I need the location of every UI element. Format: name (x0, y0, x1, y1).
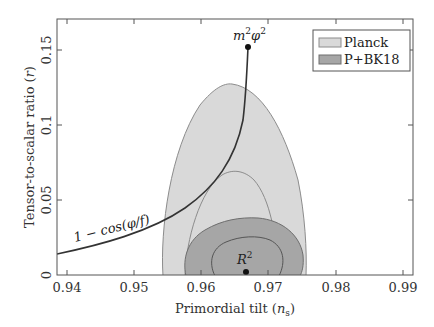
x-axis-label: Primordial tilt (ns) (175, 301, 295, 318)
legend: Planck P+BK18 (313, 30, 410, 71)
legend-label-pbk18: P+BK18 (344, 52, 399, 67)
m2phi2-annotation: m2φ2 (233, 26, 266, 43)
legend-label-planck: Planck (344, 35, 388, 50)
x-tick-label: 0.99 (389, 280, 418, 295)
y-tick-label: 0.05 (39, 186, 54, 215)
chart: 0.94 0.95 0.96 0.97 0.98 0.99 0 0.05 0.1… (0, 0, 434, 327)
plot-area (57, 47, 306, 276)
x-tick-label: 0.97 (254, 280, 283, 295)
r2-point (243, 269, 249, 275)
legend-swatch-pbk18 (319, 55, 341, 64)
y-axis-label: Tensor-to-scalar ratio (r) (22, 66, 37, 228)
m2phi2-point (245, 44, 251, 50)
y-tick-label: 0 (39, 271, 54, 279)
legend-swatch-planck (319, 38, 341, 47)
y-tick-label: 0.15 (39, 36, 54, 65)
x-tick-label: 0.95 (120, 280, 149, 295)
x-tick-label: 0.98 (322, 280, 351, 295)
x-tick-label: 0.96 (187, 280, 216, 295)
y-tick-label: 0.1 (39, 115, 54, 136)
x-tick-label: 0.94 (53, 280, 82, 295)
